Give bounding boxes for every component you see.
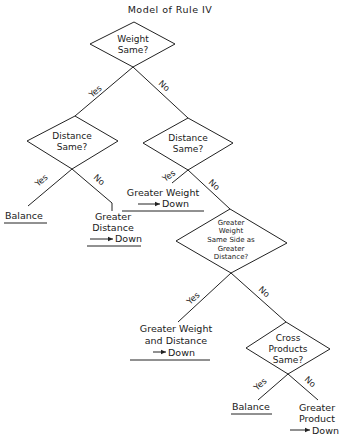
node-text: Distance? [214, 253, 249, 261]
outcome-text: Down [168, 347, 195, 358]
decision-weight-same: Weight Same? [90, 22, 175, 67]
outcome-greater-distance-down: Greater Distance Down [87, 211, 142, 246]
edge-label-no: No [92, 172, 107, 187]
outcome-text: Balance [5, 210, 43, 221]
outcome-balance: Balance [4, 210, 47, 223]
node-text: Same Side as [207, 236, 255, 244]
node-text: Products [269, 344, 308, 354]
edge-label-yes: Yes [86, 83, 104, 100]
outcome-text: Greater Weight [140, 323, 213, 334]
outcome-text: Product [299, 413, 335, 424]
edge-label-yes: Yes [251, 375, 269, 393]
node-text: Same? [173, 144, 204, 154]
node-text: Weight [219, 227, 244, 235]
outcome-text: Down [162, 198, 189, 209]
node-text: Greater [218, 219, 245, 227]
node-text: Cross [276, 333, 301, 343]
outcome-text: Balance [232, 401, 270, 412]
outcome-greater-weight-down: Greater Weight Down [122, 187, 204, 211]
decision-distance-same-right: Distance Same? [143, 118, 233, 170]
edge-label-yes: Yes [160, 167, 178, 184]
node-text: Same? [273, 355, 304, 365]
edge-no [72, 169, 112, 203]
node-text: Distance [168, 133, 208, 143]
node-text: Same? [57, 142, 88, 152]
outcome-balance: Balance [231, 401, 272, 414]
diagram-title: Model of Rule IV [128, 4, 213, 15]
decision-cross-products-same: Cross Products Same? [246, 322, 330, 374]
rule-iv-flowchart: Model of Rule IV Weight Same? Yes No Dis… [0, 0, 339, 436]
decision-greater-weight-same-side: Greater Weight Same Side as Greater Dist… [176, 209, 287, 273]
node-text: Greater [218, 245, 245, 253]
node-text: Distance [52, 131, 92, 141]
outcome-text: Greater [299, 402, 335, 413]
edge-label-no: No [257, 284, 272, 299]
outcome-greater-product-down: Greater Product Down [290, 402, 339, 436]
outcome-text: Greater Weight [127, 187, 200, 198]
outcome-text: and Distance [145, 335, 208, 346]
node-text: Weight [117, 34, 149, 44]
edge-yes [28, 169, 72, 206]
decision-distance-same-left: Distance Same? [27, 116, 118, 169]
outcome-text: Distance [92, 222, 134, 233]
edge-no [133, 67, 188, 118]
outcome-text: Greater [95, 211, 131, 222]
edge-no [231, 273, 286, 322]
node-text: Same? [118, 45, 149, 55]
outcome-greater-weight-and-distance-down: Greater Weight and Distance Down [130, 323, 212, 360]
edge-label-yes: Yes [184, 289, 202, 307]
outcome-text: Down [312, 425, 339, 436]
outcome-text: Down [115, 233, 142, 244]
edge-label-no: No [303, 374, 318, 389]
edge-label-yes: Yes [32, 172, 50, 189]
edge-yes [75, 67, 133, 116]
